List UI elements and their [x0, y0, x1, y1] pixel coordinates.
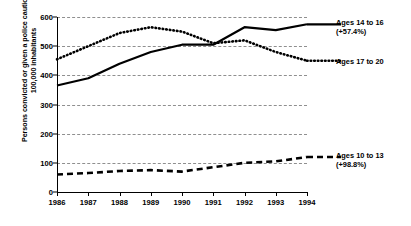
x-tick-mark [57, 192, 58, 196]
y-tick-label: 400 [40, 71, 53, 80]
series-layer [57, 17, 307, 192]
x-tick-mark [307, 192, 308, 196]
y-tick-label: 100 [40, 158, 53, 167]
x-tick-label: 1992 [236, 198, 253, 207]
x-tick-label: 1989 [142, 198, 159, 207]
series-annotation-change: (+98.8%) [336, 160, 384, 169]
x-tick-label: 1990 [174, 198, 191, 207]
x-tick-label: 1987 [80, 198, 97, 207]
series-annotation-ages-10-13: Ages 10 to 13 (+98.8%) [336, 151, 384, 169]
series-annotation-ages-14-16: Ages 14 to 16 (+57.4%) [336, 18, 384, 36]
series-annotation-label: Ages 10 to 13 [336, 151, 384, 160]
y-tick-label: 600 [40, 13, 53, 22]
series-annotation-label: Ages 14 to 16 [336, 18, 384, 27]
series-annotation-ages-17-20: Ages 17 to 20 [336, 57, 384, 66]
x-tick-label: 1986 [49, 198, 66, 207]
series-line-ages-14-to-16 [57, 24, 307, 85]
series-line-ages-10-to-13 [57, 157, 307, 175]
x-tick-mark [213, 192, 214, 196]
x-tick-label: 1991 [205, 198, 222, 207]
x-tick-mark [120, 192, 121, 196]
y-tick-label: 0 [49, 188, 53, 197]
x-tick-label: 1988 [111, 198, 128, 207]
y-tick-label: 200 [40, 129, 53, 138]
x-tick-mark [276, 192, 277, 196]
y-tick-label: 300 [40, 100, 53, 109]
x-tick-mark [151, 192, 152, 196]
y-tick-label: 500 [40, 42, 53, 51]
x-tick-mark [88, 192, 89, 196]
x-tick-mark [245, 192, 246, 196]
x-tick-label: 1993 [267, 198, 284, 207]
x-tick-label: 1994 [299, 198, 316, 207]
line-chart: Persons convicted or given a police caut… [0, 0, 411, 226]
y-axis-label: Persons convicted or given a police caut… [21, 0, 38, 151]
plot-area: 0100200300400500600 19861987198819891990… [57, 17, 307, 192]
x-tick-mark [182, 192, 183, 196]
series-annotation-label: Ages 17 to 20 [336, 57, 384, 66]
series-annotation-change: (+57.4%) [336, 27, 384, 36]
